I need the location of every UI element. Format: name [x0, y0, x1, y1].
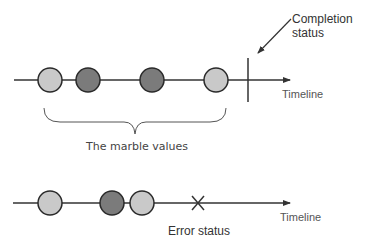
completion-status-label-line2: status [292, 26, 324, 40]
error-status-label: Error status [168, 224, 230, 238]
marble-values-label: The marble values [86, 140, 188, 153]
bottom-marble-2-dark [100, 191, 124, 215]
top-marble-4-light [204, 68, 228, 92]
bottom-marble-3-light [130, 191, 154, 215]
completion-pointer-arrow-icon [258, 19, 291, 53]
top-marble-3-dark [140, 68, 164, 92]
top-marble-1-light [38, 68, 62, 92]
marble-values-brace-icon [44, 108, 226, 134]
top-marble-2-dark [76, 68, 100, 92]
bottom-timeline-label: Timeline [280, 211, 321, 223]
completion-status-label-line1: Completion [292, 12, 353, 26]
marble-diagram: Completion status Timeline The marble va… [0, 0, 365, 249]
top-timeline [14, 19, 291, 134]
top-timeline-label: Timeline [282, 88, 323, 100]
bottom-timeline [13, 191, 290, 215]
bottom-marble-1-light [38, 191, 62, 215]
